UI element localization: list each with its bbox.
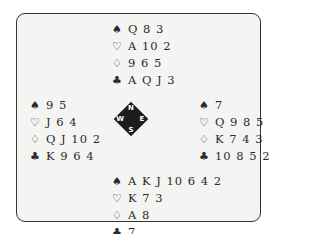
heart-icon: ♡ [199,114,215,131]
compass-icon: N W E S [114,102,148,136]
heart-icon: ♡ [112,38,128,55]
diamond-icon: ♢ [112,55,128,72]
west-hearts: ♡J 6 4 [30,114,101,131]
west-diamonds: ♢Q J 10 2 [30,131,101,148]
west-clubs: ♣K 9 6 4 [30,148,101,165]
spade-icon: ♠ [112,21,128,38]
east-spades: ♠7 [199,97,271,114]
compass-east-label: E [137,115,147,123]
club-icon: ♣ [112,224,128,234]
compass-north-label: N [126,104,136,112]
south-hearts: ♡K 7 3 [112,190,222,207]
north-hearts: ♡A 10 2 [112,38,176,55]
north-diamonds: ♢9 6 5 [112,55,176,72]
north-clubs: ♣A Q J 3 [112,72,176,89]
diamond-icon: ♢ [199,131,215,148]
spade-icon: ♠ [30,97,46,114]
compass-south-label: S [126,126,136,134]
spade-icon: ♠ [112,173,128,190]
compass-west-label: W [115,115,125,123]
south-spades: ♠A K J 10 6 4 2 [112,173,222,190]
club-icon: ♣ [30,148,46,165]
diamond-icon: ♢ [112,207,128,224]
east-hearts: ♡Q 9 8 5 [199,114,271,131]
spade-icon: ♠ [199,97,215,114]
east-hand: ♠7 ♡Q 9 8 5 ♢K 7 4 3 ♣10 8 5 2 [199,97,271,165]
north-spades: ♠Q 8 3 [112,21,176,38]
south-diamonds: ♢A 8 [112,207,222,224]
west-spades: ♠9 5 [30,97,101,114]
club-icon: ♣ [112,72,128,89]
heart-icon: ♡ [112,190,128,207]
east-diamonds: ♢K 7 4 3 [199,131,271,148]
south-hand: ♠A K J 10 6 4 2 ♡K 7 3 ♢A 8 ♣7 [112,173,222,234]
west-hand: ♠9 5 ♡J 6 4 ♢Q J 10 2 ♣K 9 6 4 [30,97,101,165]
south-clubs: ♣7 [112,224,222,234]
heart-icon: ♡ [30,114,46,131]
north-hand: ♠Q 8 3 ♡A 10 2 ♢9 6 5 ♣A Q J 3 [112,21,176,89]
club-icon: ♣ [199,148,215,165]
diamond-icon: ♢ [30,131,46,148]
east-clubs: ♣10 8 5 2 [199,148,271,165]
